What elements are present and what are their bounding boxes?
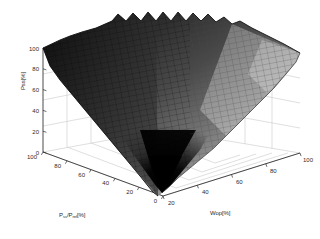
y-tick-label: 80: [270, 168, 277, 174]
x-tick-label: 60: [78, 172, 85, 178]
x-tick-label: 100: [27, 154, 38, 160]
y-axis-title: Wop[%]: [210, 210, 230, 216]
z-tick-label: 100: [29, 46, 40, 52]
x-axis-title-tail: [%]: [77, 212, 85, 218]
y-tick-label: 60: [236, 179, 243, 185]
z-tick-label: 40: [32, 108, 39, 114]
z-tick-label: 60: [32, 87, 39, 93]
x-tick-label: 20: [126, 189, 133, 195]
x-tick-label: 40: [102, 180, 109, 186]
y-tick-label: 100: [303, 157, 314, 163]
z-axis-ticks: 100 80 60 40 20 0: [29, 46, 46, 156]
y-tick-label: 20: [168, 200, 175, 206]
x-tick-label: 80: [54, 163, 61, 169]
z-tick-label: 20: [32, 129, 39, 135]
matlab-3d-surface-plot: 100 80 60 40 20 0 100 80 60 40 20 0: [0, 0, 320, 239]
y-tick-label: 40: [202, 189, 209, 195]
z-axis-title: Pss[%]: [20, 72, 26, 90]
x-axis-title: Pss/Pref[%]: [59, 212, 85, 219]
surface-mesh: [30, 5, 320, 205]
x-tick-label: 0: [154, 198, 158, 204]
z-tick-label: 80: [32, 66, 39, 72]
